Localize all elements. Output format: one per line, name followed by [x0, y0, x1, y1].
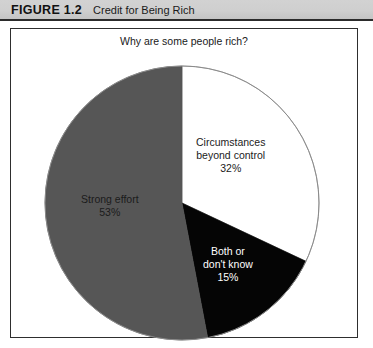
slice-label-circumstances-line2: beyond control	[196, 149, 265, 161]
figure-header: FIGURE 1.2 Credit for Being Rich	[0, 0, 373, 21]
slice-label-both-line1: Both or	[211, 245, 245, 257]
chart-frame: Why are some people rich?	[10, 28, 358, 338]
slice-label-circumstances: Circumstances beyond control 32%	[196, 136, 265, 175]
chart-title: Why are some people rich?	[11, 35, 357, 47]
figure-caption: Credit for Being Rich	[93, 4, 195, 16]
slice-label-both-or-dont-know: Both or don't know 15%	[203, 245, 253, 284]
slice-label-both-line2: don't know	[203, 258, 253, 270]
slice-value-circumstances: 32%	[196, 162, 265, 175]
figure-number: FIGURE 1.2	[11, 3, 82, 17]
slice-label-circumstances-line1: Circumstances	[196, 136, 265, 148]
slice-value-strong-effort: 53%	[81, 206, 139, 219]
slice-value-both: 15%	[203, 271, 253, 284]
slice-label-strong-effort: Strong effort 53%	[81, 193, 139, 219]
slice-label-strong-effort-line1: Strong effort	[81, 193, 139, 205]
